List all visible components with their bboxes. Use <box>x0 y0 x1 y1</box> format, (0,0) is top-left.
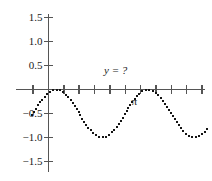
curve-dot <box>44 96 46 98</box>
curve-dot <box>56 89 58 91</box>
curve-dot <box>67 96 69 98</box>
curve-dot <box>62 91 64 93</box>
curve-dot <box>65 94 67 96</box>
x-axis-tick-label: π <box>132 95 138 107</box>
curve-annotation: y = ? <box>104 64 127 76</box>
chart-figure: 1.51.00.5−0.5−1.0−1.5 π2π y = ? <box>0 0 212 181</box>
curve-dot <box>39 101 41 103</box>
curve-dot <box>198 135 200 137</box>
curve-dot <box>98 136 100 138</box>
curve-dot <box>206 128 208 130</box>
curve-dot <box>85 124 87 126</box>
curve-dot <box>79 114 81 116</box>
curve-dot <box>81 118 83 120</box>
curve-dot <box>164 103 166 105</box>
curve-dot <box>157 94 159 96</box>
curve-dot <box>72 102 74 104</box>
y-axis-tick-label: −1.5 <box>23 155 43 167</box>
curve-dot <box>138 93 140 95</box>
curve-dot <box>105 136 107 138</box>
curve-dot <box>111 131 113 133</box>
y-axis-tick-label: 0.5 <box>29 59 43 71</box>
curve-dot <box>49 91 51 93</box>
axes-layer <box>16 14 205 172</box>
curve-dot <box>201 133 203 135</box>
curve-dot <box>204 131 206 133</box>
curve-dot <box>141 90 143 92</box>
curve-dot <box>122 117 124 119</box>
curve-dot <box>92 132 94 134</box>
curve-dot <box>87 127 89 129</box>
curve-dot <box>41 99 43 101</box>
curve-dot <box>124 113 126 115</box>
curve-dot <box>180 127 182 129</box>
y-axis-tick-label: −0.5 <box>23 107 43 119</box>
curve-dot <box>176 121 178 123</box>
curve-dot <box>191 136 193 138</box>
curve-dot <box>174 118 176 120</box>
curve-dot <box>170 112 172 114</box>
y-axis-tick-label: −1.0 <box>23 131 43 143</box>
curve-dot <box>95 134 97 136</box>
curve-dot <box>148 89 150 91</box>
curve-dot <box>76 108 78 110</box>
curve-dot <box>185 133 187 135</box>
curve-dot <box>74 105 76 107</box>
curve-dot <box>127 107 129 109</box>
curve-dot <box>78 111 80 113</box>
curve-dot <box>59 89 61 91</box>
y-axis-tick-label: 1.5 <box>29 11 43 23</box>
curve-dot <box>162 100 164 102</box>
curve-dot <box>118 123 120 125</box>
curve-dot <box>166 106 168 108</box>
curve-dot <box>188 135 190 137</box>
curve-dot <box>145 89 147 91</box>
curve-dot <box>46 93 48 95</box>
curve-dot <box>152 90 154 92</box>
curve-dot <box>70 99 72 101</box>
y-axis-tick-label: 1.0 <box>29 35 43 47</box>
curve-dot <box>168 109 170 111</box>
curve-dot <box>126 110 128 112</box>
curve-dot <box>160 97 162 99</box>
curve-dot <box>178 124 180 126</box>
curve-dot <box>83 121 85 123</box>
curve-dot <box>102 136 104 138</box>
curve-dot <box>172 115 174 117</box>
curve-dot <box>116 126 118 128</box>
curve-dot <box>195 136 197 138</box>
curve-dot <box>108 134 110 136</box>
curve-dot <box>120 120 122 122</box>
curve-dot <box>113 129 115 131</box>
curve-dot <box>52 89 54 91</box>
